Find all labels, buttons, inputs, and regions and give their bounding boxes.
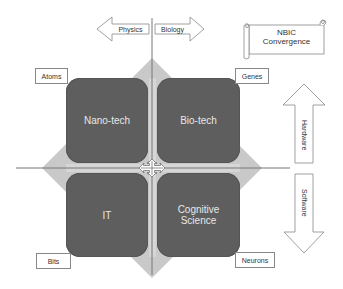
tag-label: Atoms <box>42 73 62 80</box>
tag-atoms: Atoms <box>35 68 68 84</box>
tag-bits: Bits <box>36 253 71 269</box>
hardware-label: Hardware <box>301 120 308 150</box>
hardware-arrow: Hardware <box>295 108 313 162</box>
software-arrow: Software <box>295 176 313 230</box>
quadrant-label-line1: Cognitive <box>178 204 220 215</box>
tag-genes: Genes <box>235 68 269 84</box>
quadrant-label: Nano-tech <box>84 115 130 126</box>
quadrant-label-line2: Science <box>181 215 217 226</box>
tag-label: Genes <box>242 73 263 80</box>
biology-label: Biology <box>161 26 184 33</box>
physics-label: Physics <box>118 26 142 33</box>
quadrant-nano-tech: Nano-tech <box>66 78 148 163</box>
tag-label: Neurons <box>242 257 268 264</box>
title-line2: Convergence <box>249 37 324 46</box>
tag-label: Bits <box>48 258 60 265</box>
quadrant-it: IT <box>66 173 148 257</box>
quadrant-bio-tech: Bio-tech <box>157 78 240 163</box>
diagram-title: NBIC Convergence <box>249 28 324 46</box>
software-label: Software <box>301 189 308 217</box>
biology-arrow: Biology <box>155 24 190 34</box>
physics-arrow: Physics <box>112 24 149 34</box>
tag-neurons: Neurons <box>235 252 275 268</box>
quadrant-label: IT <box>103 210 112 221</box>
quadrant-cognitive-science: Cognitive Science <box>157 173 240 257</box>
title-line1: NBIC <box>249 28 324 37</box>
quadrant-label: Bio-tech <box>180 115 217 126</box>
